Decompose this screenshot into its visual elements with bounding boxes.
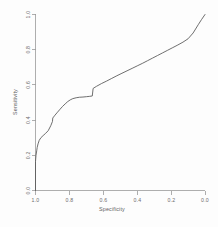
y-tick-label: 0.6 [25,81,31,89]
y-tick-label: 0.8 [25,46,31,54]
x-tick-label: 1.0 [32,197,40,203]
y-axis-title: Sensitivity [12,89,18,115]
y-axis-tick-labels: 0.0 0.2 0.4 0.6 0.8 1.0 [25,11,31,195]
roc-plot-panel: 1.0 0.8 0.6 0.4 0.2 0.0 0.0 0.2 0.4 0.6 … [0,0,218,227]
x-axis-title: Specificity [99,206,125,212]
x-tick-label: 0.8 [66,197,74,203]
y-tick-label: 1.0 [25,11,31,19]
roc-curve-line [36,15,206,191]
x-axis-tick-labels: 1.0 0.8 0.6 0.4 0.2 0.0 [32,197,209,203]
y-tick-label: 0.4 [25,116,31,124]
x-tick-label: 0.2 [168,197,176,203]
axis-frame [36,14,206,191]
y-tick-label: 0.2 [25,151,31,159]
roc-chart-svg: 1.0 0.8 0.6 0.4 0.2 0.0 0.0 0.2 0.4 0.6 … [0,0,218,227]
y-axis-ticks [32,15,36,191]
x-tick-label: 0.6 [100,197,108,203]
x-tick-label: 0.4 [134,197,142,203]
y-tick-label: 0.0 [25,187,31,195]
x-tick-label: 0.0 [201,197,209,203]
x-axis-ticks [36,191,206,195]
